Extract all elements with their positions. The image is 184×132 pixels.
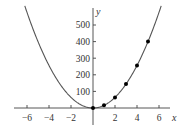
x-axis-label: x bbox=[171, 112, 177, 123]
y-tick-label: 200 bbox=[76, 70, 91, 80]
y-tick-label: 300 bbox=[76, 54, 91, 64]
data-points bbox=[91, 40, 150, 110]
data-point bbox=[91, 106, 95, 110]
y-axis-label: y bbox=[95, 6, 101, 17]
data-point bbox=[113, 95, 117, 99]
y-tick-label: 100 bbox=[76, 87, 91, 97]
data-point bbox=[146, 40, 150, 44]
parabola-chart: −6−4−2246 100200300400500 x y bbox=[0, 0, 184, 132]
x-tick-label: −6 bbox=[22, 113, 32, 123]
x-tick-label: 2 bbox=[113, 113, 118, 123]
data-point bbox=[135, 64, 139, 68]
data-point bbox=[102, 103, 106, 107]
axes: −6−4−2246 100200300400500 x y bbox=[14, 6, 177, 125]
x-tick-label: −4 bbox=[44, 113, 54, 123]
x-tick-label: 6 bbox=[157, 113, 162, 123]
y-tick-label: 500 bbox=[76, 20, 91, 30]
x-tick-label: −2 bbox=[66, 113, 76, 123]
x-tick-label: 4 bbox=[135, 113, 140, 123]
y-tick-label: 400 bbox=[76, 37, 91, 47]
data-point bbox=[124, 82, 128, 86]
